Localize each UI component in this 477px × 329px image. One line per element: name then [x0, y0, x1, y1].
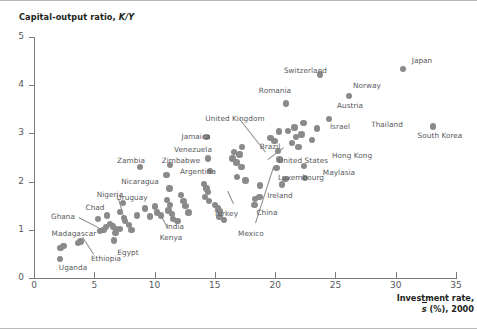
- x-axis-title-line1: Investment rate,: [382, 293, 474, 304]
- data-point: [107, 221, 113, 227]
- x-axis-tick-label: 25: [322, 280, 348, 290]
- point-label-zambia: Zambia: [117, 156, 145, 165]
- data-point: [174, 218, 180, 224]
- x-axis-tick: [215, 272, 216, 279]
- data-point: [201, 181, 207, 187]
- data-point: [236, 151, 242, 157]
- data-point: [128, 227, 134, 233]
- data-point-india: [170, 216, 176, 222]
- point-label-luxembourg: Luxembourg: [278, 173, 324, 182]
- point-label-chad: Chad: [85, 203, 104, 212]
- x-axis-tick: [155, 272, 156, 279]
- data-point: [229, 155, 235, 161]
- data-point: [113, 226, 119, 232]
- point-label-austria: Austria: [337, 101, 363, 110]
- data-point-ghana: [97, 228, 103, 234]
- y-axis-tick: [29, 182, 35, 183]
- point-label-argentina: Argentina: [180, 167, 216, 176]
- data-point: [293, 134, 299, 140]
- data-point: [142, 205, 148, 211]
- point-label-kenya: Kenya: [160, 233, 183, 242]
- point-label-brazil: Brazil: [260, 142, 281, 151]
- data-point-south-korea: [430, 123, 436, 129]
- x-axis-tick-label: 0: [21, 280, 47, 290]
- data-point: [252, 196, 258, 202]
- point-label-united-states: United States: [278, 156, 328, 165]
- data-point: [285, 128, 291, 134]
- data-point: [60, 243, 66, 249]
- point-label-zimbabwe: Zimbabwe: [162, 156, 201, 165]
- data-point-switzerland: [317, 71, 323, 77]
- y-axis-title: Capital-output ratio, K/Y: [19, 12, 134, 22]
- data-point: [178, 192, 184, 198]
- data-point-venezuela: [205, 155, 211, 161]
- point-label-ethiopia: Ethiopia: [91, 254, 121, 263]
- label-leader-line: [227, 191, 234, 204]
- point-label-mexico: Mexico: [238, 229, 264, 238]
- x-axis-tick-label: 30: [383, 280, 409, 290]
- data-point-romania: [283, 100, 289, 106]
- data-point-thailand: [326, 116, 332, 122]
- y-axis-tick: [29, 85, 35, 86]
- point-label-india: India: [166, 222, 184, 231]
- data-point: [289, 140, 295, 146]
- data-point: [202, 194, 208, 200]
- data-point: [158, 212, 164, 218]
- point-label-china: China: [256, 208, 277, 217]
- s-bar-overline: [422, 302, 427, 303]
- y-axis-line: [34, 37, 35, 279]
- data-point: [134, 212, 140, 218]
- x-axis-title-line2: s (%), 2000: [382, 304, 474, 315]
- x-axis-title-symbol: s: [422, 304, 427, 314]
- data-point: [295, 144, 301, 150]
- data-point-austria: [300, 120, 306, 126]
- data-point: [291, 124, 297, 130]
- x-axis-title: Investment rate, s (%), 2000: [382, 293, 474, 314]
- x-axis-tick: [34, 272, 35, 279]
- data-point: [164, 197, 170, 203]
- x-axis-tick-label: 20: [262, 280, 288, 290]
- x-axis-title-units: (%), 2000: [427, 304, 474, 314]
- data-point-uganda: [57, 256, 63, 262]
- data-point-jamaica: [203, 134, 209, 140]
- data-point-israel: [309, 137, 315, 143]
- scatter-chart-figure: Capital-output ratio, K/Y Investment rat…: [0, 0, 477, 329]
- x-axis-tick-label: 15: [202, 280, 228, 290]
- point-label-norway: Norway: [353, 81, 381, 90]
- data-point-united-states: [273, 165, 279, 171]
- data-point: [271, 138, 277, 144]
- data-point: [126, 222, 132, 228]
- data-point: [267, 135, 273, 141]
- data-point: [233, 159, 239, 165]
- data-point: [95, 216, 101, 222]
- point-label-jamaica: Jamaica: [181, 132, 210, 141]
- label-leader-line: [239, 119, 266, 153]
- data-point-nicaragua: [163, 172, 169, 178]
- data-point: [117, 209, 123, 215]
- point-label-egypt: Egypt: [117, 248, 138, 257]
- point-label-uruguay: Uruguay: [116, 193, 147, 202]
- x-axis-line: [34, 278, 456, 279]
- data-point-norway: [346, 93, 352, 99]
- x-axis-tick-label: 5: [81, 280, 107, 290]
- y-axis-tick-label: 5: [2, 31, 24, 41]
- data-point: [112, 230, 118, 236]
- data-point: [276, 156, 282, 162]
- data-point: [110, 223, 116, 229]
- x-axis-tick: [396, 272, 397, 279]
- x-axis-tick-label: 10: [142, 280, 168, 290]
- label-leader-line: [267, 147, 284, 160]
- data-point-zimbabwe: [167, 162, 173, 168]
- y-axis-tick-label: 4: [2, 79, 24, 89]
- data-point: [180, 198, 186, 204]
- data-point-kenya: [122, 218, 128, 224]
- y-axis-tick-label: 1: [2, 224, 24, 234]
- label-leader-line: [79, 217, 100, 229]
- y-axis-tick: [29, 230, 35, 231]
- data-point: [154, 209, 160, 215]
- y-axis-tick: [29, 37, 35, 38]
- data-point-nigeria: [120, 200, 126, 206]
- data-point: [203, 185, 209, 191]
- data-point-luxembourg: [282, 176, 288, 182]
- x-axis-tick: [94, 272, 95, 279]
